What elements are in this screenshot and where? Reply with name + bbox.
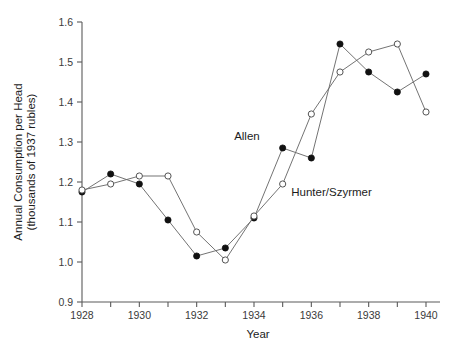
data-point [194, 253, 200, 259]
y-axis-tick-label: 1.3 [58, 136, 73, 148]
data-point [423, 71, 429, 77]
y-axis-tick-label: 1.1 [58, 216, 73, 228]
x-axis-tick-label: 1932 [185, 309, 209, 321]
y-axis-tick-label: 1.5 [58, 56, 73, 68]
data-point [423, 109, 429, 115]
data-point [366, 69, 372, 75]
data-point [337, 41, 343, 47]
data-point [366, 49, 372, 55]
data-point [308, 155, 314, 161]
y-axis-tick-label: 0.9 [58, 296, 73, 308]
data-point [308, 111, 314, 117]
data-point [222, 257, 228, 263]
data-point [194, 229, 200, 235]
line-chart: 0.91.01.11.21.31.41.51.61928193019321934… [0, 0, 460, 345]
x-axis-tick-label: 1934 [242, 309, 266, 321]
data-point [337, 69, 343, 75]
y-axis-tick-label: 1.0 [58, 256, 73, 268]
tick-labels: 0.91.01.11.21.31.41.51.61928193019321934… [58, 16, 437, 321]
y-axis-tick-label: 1.2 [58, 176, 73, 188]
x-axis-tick-label: 1938 [357, 309, 381, 321]
series-line [82, 44, 426, 256]
data-point [280, 145, 286, 151]
data-point [108, 171, 114, 177]
x-axis-title: Year [246, 328, 269, 340]
y-axis-title-line2: (thousands of 1937 rubles) [25, 93, 37, 230]
data-point [136, 173, 142, 179]
x-axis-tick-label: 1936 [300, 309, 324, 321]
data-point [394, 41, 400, 47]
y-axis-tick-label: 1.4 [58, 96, 73, 108]
data-point [165, 217, 171, 223]
data-point [394, 89, 400, 95]
data-point [136, 181, 142, 187]
axes [77, 22, 440, 307]
data-point [165, 173, 171, 179]
series-hunter-szyrmer [79, 41, 429, 263]
series-label-hunter-szyrmer: Hunter/Szyrmer [291, 186, 372, 198]
y-axis-title-line1: Annual Consumption per Head [12, 83, 24, 240]
series-annotations: AllenHunter/Szyrmer [234, 130, 372, 198]
data-series [79, 41, 429, 263]
data-point [79, 187, 85, 193]
x-axis-tick-label: 1940 [414, 309, 438, 321]
y-axis-tick-label: 1.6 [58, 16, 73, 28]
series-label-allen: Allen [234, 130, 260, 142]
data-point [222, 245, 228, 251]
x-axis-tick-label: 1928 [70, 309, 94, 321]
x-axis-tick-label: 1930 [128, 309, 152, 321]
data-point [251, 213, 257, 219]
series-allen [79, 41, 429, 259]
data-point [280, 181, 286, 187]
chart-container: 0.91.01.11.21.31.41.51.61928193019321934… [0, 0, 460, 345]
data-point [108, 181, 114, 187]
